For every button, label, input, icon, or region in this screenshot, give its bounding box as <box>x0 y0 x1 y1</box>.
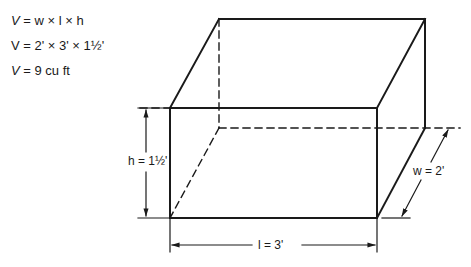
height-label: h = 1½' <box>128 154 167 168</box>
box-diagram <box>0 0 471 267</box>
extension-lines <box>138 108 410 252</box>
length-label: l = 3' <box>255 238 286 252</box>
box-hidden-edges <box>140 19 460 218</box>
width-label: w = 2' <box>413 164 444 178</box>
box-solid-edges <box>170 19 425 218</box>
dimension-lines <box>146 110 448 245</box>
